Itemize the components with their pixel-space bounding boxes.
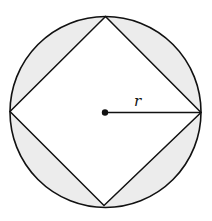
center-point	[102, 109, 108, 115]
inscribed-square-diagram: r	[0, 0, 212, 221]
radius-label: r	[134, 92, 142, 110]
diagram-canvas: r	[0, 0, 212, 221]
